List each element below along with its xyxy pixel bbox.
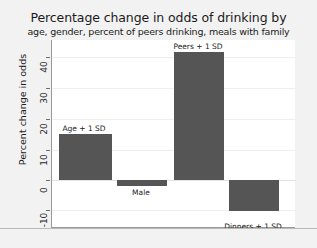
- chart-title: Percentage change in odds of drinking by: [0, 10, 317, 25]
- bar-age[interactable]: [59, 134, 112, 180]
- ytick-mark-10: [46, 150, 50, 151]
- ytick-mark-0: [46, 180, 50, 181]
- ytick-label-30: 30: [39, 87, 49, 109]
- ytick-mark-30: [46, 88, 50, 89]
- bar-peers[interactable]: [174, 52, 224, 180]
- ytick-mark-20: [46, 119, 50, 120]
- bar-male[interactable]: [117, 180, 167, 186]
- ytick-label-10: 10: [39, 149, 49, 171]
- bar-label-peers: Peers + 1 SD: [148, 42, 248, 51]
- bar-label-age: Age + 1 SD: [34, 124, 134, 133]
- plot-area: [51, 40, 295, 228]
- figure-bottom-margin: [0, 229, 317, 248]
- ytick-mark-40: [46, 57, 50, 58]
- ytick-label-40: 40: [39, 56, 49, 78]
- ytick-mark-neg10: [46, 210, 50, 211]
- ytick-label-0-wrap: 0: [18, 174, 44, 186]
- chart-screenshot: Percentage change in odds of drinking by…: [0, 0, 317, 248]
- bar-dinners[interactable]: [229, 180, 279, 211]
- chart-subtitle: age, gender, percent of peers drinking, …: [0, 26, 317, 37]
- bar-label-male: Male: [91, 188, 191, 197]
- ytick-label-0: 0: [39, 179, 49, 201]
- y-axis-title: Percent change in odds: [17, 50, 28, 170]
- ytick-label-neg10-wrap: -10: [18, 204, 44, 216]
